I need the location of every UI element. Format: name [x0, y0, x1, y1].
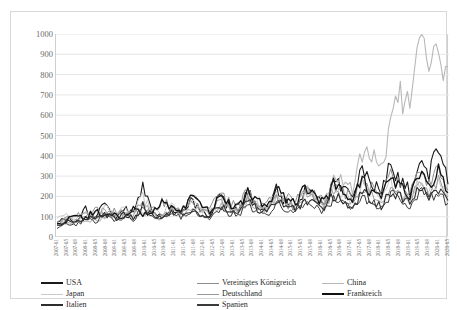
legend-label: Spanien — [222, 301, 248, 309]
x-tick-label: 2014-09 — [279, 239, 284, 256]
legend-item[interactable]: Japan — [41, 289, 197, 299]
legend-swatch-icon — [197, 304, 219, 306]
x-tick-label: 2009-09 — [132, 239, 137, 256]
legend-swatch-icon — [41, 294, 63, 295]
x-tick-label: 2019-01 — [406, 239, 411, 256]
x-tick-label: 2009-01 — [112, 239, 117, 256]
x-tick-label: 2014-05 — [269, 239, 274, 256]
chart-legend: USAJapanItalien Vereinigtes KönigreichDe… — [25, 278, 453, 310]
x-tick-label: 2010-01 — [142, 239, 147, 256]
x-tick-label: 2008-01 — [83, 239, 88, 256]
y-tick-label: 500 — [40, 131, 53, 140]
x-tick-label: 2012-01 — [200, 239, 205, 256]
chart-frame: 01002003004005006007008009001000 2007-01… — [10, 11, 447, 299]
x-tick-label: 2012-09 — [220, 239, 225, 256]
x-tick-label: 2018-05 — [386, 239, 391, 256]
x-axis-tick-labels: 2007-012007-052007-092008-012008-052008-… — [55, 239, 448, 279]
y-tick-label: 600 — [40, 111, 53, 120]
x-tick-label: 2011-01 — [171, 239, 176, 256]
y-axis-tick-labels: 01002003004005006007008009001000 — [23, 34, 53, 237]
series-line — [57, 187, 448, 228]
legend-label: USA — [66, 279, 82, 287]
y-tick-label: 900 — [40, 50, 53, 59]
x-tick-label: 2008-05 — [93, 239, 98, 256]
legend-item[interactable]: Italien — [41, 300, 197, 310]
legend-label: Italien — [66, 301, 86, 309]
x-tick-label: 2011-09 — [191, 239, 196, 256]
y-tick-label: 700 — [40, 91, 53, 100]
legend-swatch-icon — [41, 282, 63, 284]
x-tick-label: 2007-05 — [64, 239, 69, 256]
x-tick-label: 2015-09 — [308, 239, 313, 256]
legend-swatch-icon — [322, 283, 344, 284]
x-tick-label: 2016-01 — [318, 239, 323, 256]
legend-swatch-icon — [41, 304, 63, 306]
y-tick-label: 300 — [40, 172, 53, 181]
x-tick-label: 2009-05 — [122, 239, 127, 256]
x-tick-label: 2011-05 — [181, 239, 186, 256]
line-chart-svg — [56, 34, 449, 237]
legend-label: Japan — [66, 290, 84, 298]
legend-column-1: USAJapanItalien — [25, 278, 197, 310]
y-tick-label: 100 — [40, 212, 53, 221]
x-tick-label: 2014-01 — [259, 239, 264, 256]
legend-item[interactable]: Spanien — [197, 300, 322, 310]
x-tick-label: 2013-09 — [249, 239, 254, 256]
x-tick-label: 2013-05 — [240, 239, 245, 256]
plot-area — [55, 34, 448, 237]
legend-label: Vereinigtes Königreich — [222, 279, 296, 287]
x-tick-label: 2016-05 — [328, 239, 333, 256]
x-tick-label: 2007-01 — [54, 239, 59, 256]
x-tick-label: 2015-01 — [288, 239, 293, 256]
x-tick-label: 2015-05 — [298, 239, 303, 256]
legend-label: Frankreich — [347, 290, 382, 298]
x-tick-label: 2010-05 — [152, 239, 157, 256]
x-tick-label: 2008-09 — [103, 239, 108, 256]
x-tick-label: 2013-01 — [230, 239, 235, 256]
x-tick-label: 2007-09 — [73, 239, 78, 256]
x-tick-label: 2017-05 — [357, 239, 362, 256]
legend-label: China — [347, 279, 366, 287]
x-tick-label: 2010-09 — [161, 239, 166, 256]
y-tick-label: 400 — [40, 152, 53, 161]
x-tick-label: 2016-09 — [337, 239, 342, 256]
x-tick-label: 2020-05 — [445, 239, 450, 256]
legend-item[interactable]: Deutschland — [197, 289, 322, 299]
legend-swatch-icon — [197, 294, 219, 295]
x-tick-label: 2012-05 — [210, 239, 215, 256]
legend-column-3: ChinaFrankreich — [322, 278, 442, 310]
chart-screenshot: 01002003004005006007008009001000 2007-01… — [0, 0, 457, 310]
legend-item[interactable]: USA — [41, 278, 197, 288]
legend-item[interactable]: China — [322, 278, 442, 288]
plot-canvas — [55, 34, 448, 237]
x-tick-label: 2017-01 — [347, 239, 352, 256]
legend-item[interactable]: Vereinigtes Königreich — [197, 278, 322, 288]
x-tick-label: 2017-09 — [367, 239, 372, 256]
x-tick-label: 2019-09 — [425, 239, 430, 256]
x-tick-label: 2020-01 — [435, 239, 440, 256]
y-tick-label: 200 — [40, 192, 53, 201]
x-tick-label: 2018-09 — [396, 239, 401, 256]
y-tick-label: 800 — [40, 70, 53, 79]
legend-swatch-icon — [197, 283, 219, 284]
legend-column-2: Vereinigtes KönigreichDeutschlandSpanien — [197, 278, 322, 310]
legend-swatch-icon — [322, 293, 344, 295]
y-tick-label: 1000 — [36, 30, 53, 39]
legend-item[interactable]: Frankreich — [322, 289, 442, 299]
x-tick-label: 2018-01 — [376, 239, 381, 256]
legend-label: Deutschland — [222, 290, 262, 298]
x-tick-label: 2019-05 — [415, 239, 420, 256]
